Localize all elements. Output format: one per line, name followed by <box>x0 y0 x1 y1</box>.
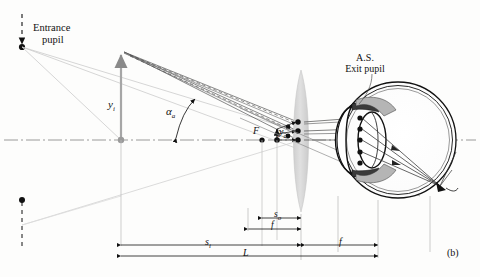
ray-bundle-dashed-extensions <box>130 55 296 132</box>
entrance-pupil-label: Entrance pupil <box>33 22 70 45</box>
angle-alpha-label: αa <box>166 105 175 120</box>
dimension-L-label: L <box>243 247 249 258</box>
dimension-s-i-label: si <box>205 236 211 250</box>
object-height-subscript: i <box>113 105 115 113</box>
entrance-pupil-label-line2: pupil <box>33 34 64 45</box>
f-left-symbol: f <box>271 220 274 230</box>
object-height-label: yi <box>108 98 115 113</box>
angle-subscript: a <box>172 112 176 120</box>
aperture-stop-text: A.S. <box>356 52 374 63</box>
focal-point-symbol: F <box>253 125 259 136</box>
dimension-f-right-label: f <box>339 236 342 247</box>
dimension-f-left-label: f <box>271 220 274 230</box>
object-arrow <box>118 55 124 246</box>
L-symbol: L <box>243 247 249 258</box>
aperture-stop-label: A.S. Exit pupil <box>334 52 396 74</box>
entrance-pupil-marker <box>19 14 25 50</box>
exit-pupil-text: Exit pupil <box>345 63 385 74</box>
dimension-drop-lines <box>301 196 430 260</box>
image-height-subscript: a <box>283 132 287 140</box>
focal-point-label: F <box>253 125 259 136</box>
image-arrow <box>274 129 280 240</box>
figure-canvas <box>0 0 480 277</box>
panel-label-text: (b) <box>447 247 459 258</box>
entrance-pupil-label-line1: Entrance <box>33 22 70 33</box>
image-height-label: ya <box>279 126 287 140</box>
s-o-subscript: o <box>278 214 282 222</box>
lower-construction-ray <box>19 140 301 250</box>
s-i-subscript: i <box>209 242 211 250</box>
optics-figure: Entrance pupil A.S. Exit pupil yi αa F y… <box>0 0 480 277</box>
dimension-s-o-label: so <box>274 209 281 222</box>
panel-label: (b) <box>447 247 459 258</box>
entrance-pupil-construction-rays <box>22 47 301 150</box>
focal-point-F <box>259 137 264 246</box>
dimension-f-right <box>305 200 378 258</box>
ray-bundle-object-to-lens <box>124 52 298 140</box>
f-right-symbol: f <box>339 236 342 247</box>
human-eye <box>336 82 459 198</box>
